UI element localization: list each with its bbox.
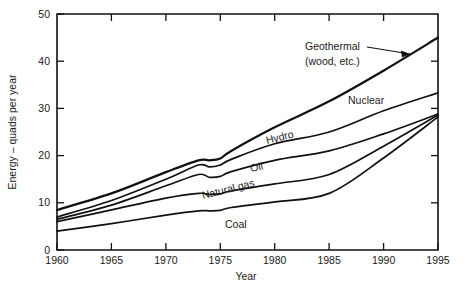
x-tick-label-1970: 1970: [154, 254, 178, 266]
x-tick-labels: 1960 1965 1970 1975 1980 1985 1990 1995: [45, 254, 450, 266]
x-top-tick-marks: [111, 14, 383, 21]
y-tick-labels: 0 10 20 30 40 50: [38, 8, 50, 256]
x-tick-label-1990: 1990: [372, 254, 396, 266]
x-tick-label-1985: 1985: [317, 254, 341, 266]
chart-canvas: 0 10 20 30 40 50 1960 1965 1970 1975 198…: [0, 0, 470, 286]
series-label-natural-gas: Natural gas: [201, 176, 256, 201]
x-tick-label-1960: 1960: [45, 254, 69, 266]
series-label-geothermal-line1: Geothermal: [305, 40, 360, 52]
series-path-nuclear: [57, 93, 438, 217]
x-tick-label-1995: 1995: [426, 254, 450, 266]
y-tick-label-30: 30: [38, 102, 50, 114]
energy-quads-line-chart: 0 10 20 30 40 50 1960 1965 1970 1975 198…: [0, 0, 470, 286]
series-group: [57, 38, 438, 232]
x-axis-title: Year: [235, 270, 257, 282]
y-tick-label-20: 20: [38, 149, 50, 161]
x-tick-label-1965: 1965: [100, 254, 124, 266]
x-tick-marks: [57, 243, 438, 250]
x-tick-label-1980: 1980: [263, 254, 287, 266]
right-tick-marks: [431, 61, 438, 203]
y-tick-label-40: 40: [38, 55, 50, 67]
y-axis-title: Energy – quads per year: [6, 74, 18, 189]
series-label-geothermal-line2: (wood, etc.): [305, 55, 360, 67]
series-label-nuclear: Nuclear: [348, 94, 385, 106]
y-tick-label-10: 10: [38, 196, 50, 208]
y-tick-label-50: 50: [38, 8, 50, 20]
series-label-coal: Coal: [225, 218, 247, 230]
series-path-hydro: [57, 114, 438, 219]
geothermal-callout-leader: [367, 47, 410, 58]
series-label-oil: Oil: [249, 160, 264, 174]
x-tick-label-1975: 1975: [209, 254, 233, 266]
